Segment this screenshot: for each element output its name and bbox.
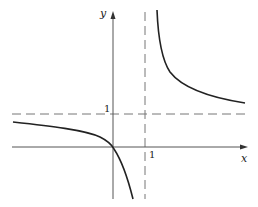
x-tick-label: 1 — [149, 149, 155, 160]
y-axis-arrow-icon — [111, 11, 116, 19]
curve-left-branch — [13, 122, 133, 199]
function-graph: y x 1 1 — [0, 0, 258, 207]
y-tick-label: 1 — [104, 103, 110, 114]
x-axis-arrow-icon — [240, 145, 248, 150]
y-axis-label: y — [99, 7, 107, 20]
x-axis-label: x — [241, 152, 248, 165]
curve-right-branch — [157, 10, 245, 103]
